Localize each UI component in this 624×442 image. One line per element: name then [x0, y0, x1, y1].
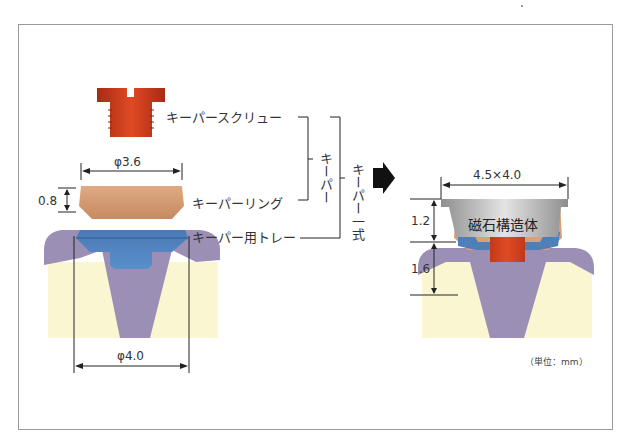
ring-diameter-label: φ3.6	[114, 155, 141, 169]
keeper-height-label: 1.6	[411, 262, 430, 276]
magnet-width-label: 4.5×4.0	[473, 168, 521, 182]
keeper-diagram: φ3.6 0.8 φ4.0 キーパースクリュー キーパーリング キーパー用トレー	[0, 0, 624, 442]
tray-label: キーパー用トレー	[192, 230, 296, 245]
screw-label: キーパースクリュー	[166, 110, 282, 125]
tray-diameter-label: φ4.0	[117, 349, 144, 363]
ring-height-dimension	[58, 188, 76, 212]
keeper-screw	[97, 88, 165, 137]
keeper-set-group-label: キーパー一式	[351, 163, 366, 241]
keeper-group-label: キーパー	[319, 152, 334, 204]
keeper-bracket	[298, 117, 313, 200]
magnet-label: 磁石構造体	[468, 217, 538, 233]
keeper-ring	[79, 186, 184, 219]
right-arrow-icon	[373, 162, 395, 194]
magnet-height-label: 1.2	[411, 214, 430, 228]
ring-height-label: 0.8	[38, 194, 57, 208]
ring-label: キーパーリング	[192, 196, 283, 211]
unit-note: （単位：mm）	[525, 356, 588, 367]
